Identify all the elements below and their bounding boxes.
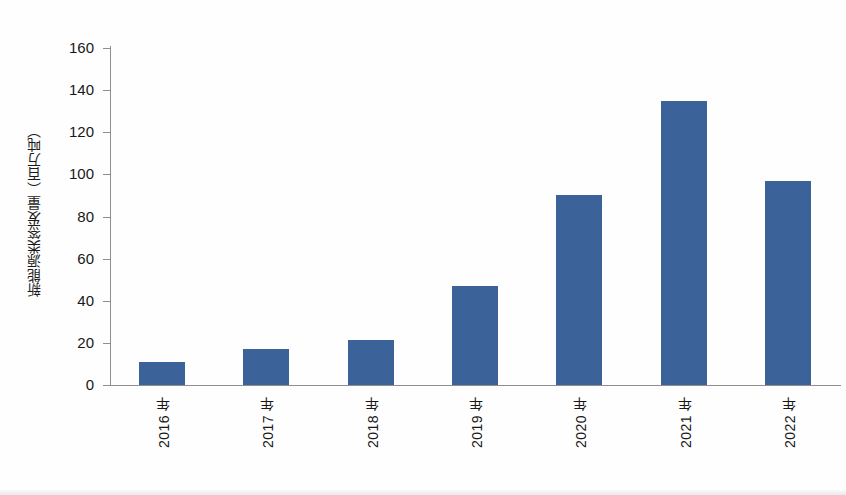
y-axis-tick xyxy=(103,259,110,260)
y-axis-tick-label: 120 xyxy=(34,123,94,140)
x-axis-label: 2020 年 xyxy=(571,396,591,448)
y-axis-tick xyxy=(103,217,110,218)
y-axis-tick xyxy=(103,343,110,344)
y-axis-tick xyxy=(103,385,110,386)
y-axis-tick xyxy=(103,48,110,49)
x-axis-label: 2016 年 xyxy=(154,396,174,448)
x-axis-label: 2022 年 xyxy=(780,396,800,448)
x-axis-label: 2018 年 xyxy=(363,396,383,448)
y-axis-tick-label: 20 xyxy=(34,334,94,351)
y-axis-tick-label: 80 xyxy=(34,208,94,225)
bar-chart: 新能源类签发量（百万吨） 020406080100120140160 2016 … xyxy=(0,0,846,495)
x-axis-label: 2017 年 xyxy=(258,396,278,448)
y-axis-tick xyxy=(103,132,110,133)
y-axis-tick-label: 160 xyxy=(34,39,94,56)
bar xyxy=(452,286,498,385)
bar xyxy=(243,349,289,385)
x-axis-label: 2021 年 xyxy=(676,396,696,448)
y-axis-tick-label: 40 xyxy=(34,292,94,309)
y-axis-line xyxy=(110,46,111,386)
y-axis-tick-label: 140 xyxy=(34,81,94,98)
bar xyxy=(556,195,602,385)
y-axis-tick-label: 60 xyxy=(34,250,94,267)
bar xyxy=(765,181,811,385)
bar xyxy=(139,362,185,385)
y-axis-tick-label: 100 xyxy=(34,165,94,182)
y-axis-tick xyxy=(103,301,110,302)
bar xyxy=(348,340,394,385)
y-axis-tick-label: 0 xyxy=(34,376,94,393)
y-axis-tick xyxy=(103,174,110,175)
x-axis-line xyxy=(110,385,841,386)
x-axis-label: 2019 年 xyxy=(467,396,487,448)
y-axis-tick xyxy=(103,90,110,91)
bar xyxy=(661,101,707,385)
